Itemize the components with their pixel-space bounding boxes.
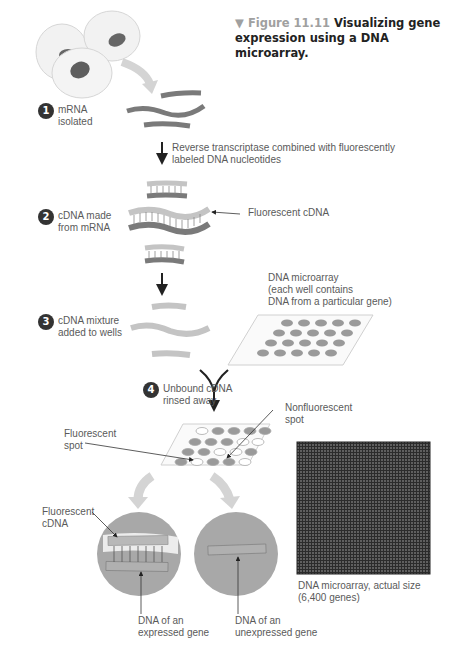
step-1-badge: 1	[38, 103, 54, 119]
step-1-label: mRNAisolated	[58, 104, 92, 128]
step-4-badge: 4	[143, 382, 159, 398]
actual-size-caption: DNA microarray, actual size (6,400 genes…	[298, 580, 421, 604]
rinsed-microarray-plate	[161, 424, 271, 466]
fluorescent-cdna-label: Fluorescent cDNA	[42, 506, 94, 530]
reverse-transcriptase-note: Reverse transcriptase combined with fluo…	[172, 142, 395, 166]
cells-illustration	[36, 11, 140, 98]
step-3-badge: 3	[38, 314, 54, 330]
expressed-gene-circle	[97, 512, 181, 596]
fluorescent-spot-label: Fluorescent spot	[64, 428, 116, 452]
step-3-label: cDNA mixtureadded to wells	[58, 315, 122, 339]
mrna-strands	[127, 93, 204, 126]
step-4-label: Unbound cDNArinsed away	[163, 383, 232, 407]
unexpressed-gene-circle	[194, 512, 278, 596]
step-2-label: cDNA madefrom mRNA	[58, 210, 111, 234]
fluorescent-cdna-callout: Fluorescent cDNA	[248, 207, 329, 219]
cdna-duplexes	[129, 183, 209, 262]
microarray-plate	[228, 315, 373, 365]
cdna-mixture-strands	[131, 306, 209, 356]
expressed-gene-label: DNA of an expressed gene	[138, 615, 209, 639]
step-2-badge: 2	[38, 209, 54, 225]
microarray-photo	[297, 442, 430, 574]
unexpressed-gene-label: DNA of an unexpressed gene	[235, 615, 317, 639]
microarray-description: DNA microarray (each well contains DNA f…	[268, 272, 392, 308]
nonfluorescent-spot-label: Nonfluorescent spot	[285, 402, 352, 426]
